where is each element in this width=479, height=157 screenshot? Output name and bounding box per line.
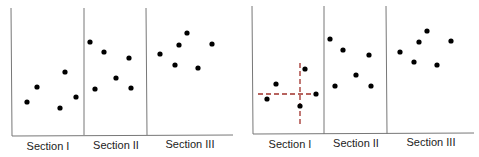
data-point xyxy=(176,42,181,47)
data-point xyxy=(340,47,345,52)
data-point xyxy=(195,65,200,70)
data-point xyxy=(101,49,106,54)
data-point xyxy=(332,83,337,88)
data-point xyxy=(92,86,97,91)
data-point xyxy=(353,72,358,77)
data-point xyxy=(448,38,453,43)
right-panel: Section I Section II Section III xyxy=(252,6,474,150)
data-point xyxy=(184,30,189,35)
data-point xyxy=(172,62,177,67)
data-point xyxy=(128,85,133,90)
left-panel: Section I Section II Section III xyxy=(11,8,233,152)
data-point xyxy=(416,39,421,44)
diagram-canvas: Section I Section II Section III Section… xyxy=(0,0,479,157)
data-point xyxy=(264,96,269,101)
data-point xyxy=(368,83,373,88)
left-axes xyxy=(11,8,233,136)
right-section-3-label: Section III xyxy=(407,136,456,148)
right-data-points xyxy=(264,28,453,108)
data-point xyxy=(62,69,67,74)
data-point xyxy=(87,39,92,44)
left-data-points xyxy=(24,30,214,110)
left-section-2-label: Section II xyxy=(93,139,139,151)
data-point xyxy=(113,75,118,80)
data-point xyxy=(313,91,318,96)
data-point xyxy=(397,49,402,54)
data-point xyxy=(57,105,62,110)
data-point xyxy=(157,51,162,56)
data-point xyxy=(327,36,332,41)
right-axes xyxy=(252,6,474,134)
data-point xyxy=(73,94,78,99)
left-divider-2 xyxy=(146,8,147,135)
right-section-2-label: Section II xyxy=(333,137,379,149)
data-point xyxy=(297,103,302,108)
data-point xyxy=(126,55,131,60)
right-divider-2 xyxy=(386,6,387,134)
data-point xyxy=(209,41,214,46)
right-section-1-label: Section I xyxy=(269,138,312,150)
data-point xyxy=(434,62,439,67)
data-point xyxy=(302,66,307,71)
data-point xyxy=(273,81,278,86)
crosshair xyxy=(258,63,318,125)
data-point xyxy=(366,52,371,57)
left-section-3-label: Section III xyxy=(166,138,215,150)
data-point xyxy=(34,84,39,89)
left-section-1-label: Section I xyxy=(27,140,70,152)
data-point xyxy=(424,28,429,33)
data-point xyxy=(24,99,29,104)
data-point xyxy=(411,59,416,64)
